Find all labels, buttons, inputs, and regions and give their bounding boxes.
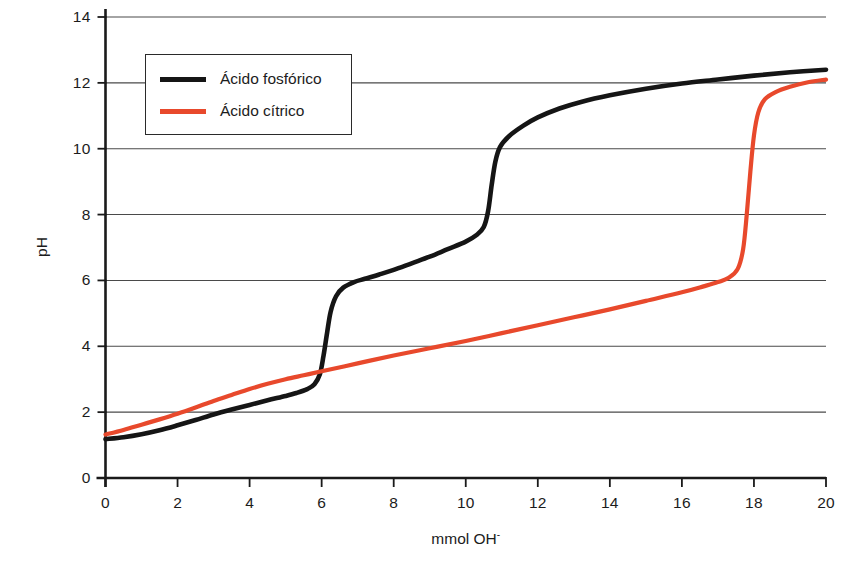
x-axis-title-superscript: -	[497, 529, 500, 540]
legend-swatch-phosphoric-icon	[160, 77, 206, 82]
x-tick-label-20: 20	[817, 494, 835, 512]
y-tick-label-2: 2	[82, 403, 91, 421]
legend-label-phosphoric: Ácido fosfórico	[220, 70, 322, 88]
chart-plot-svg	[0, 0, 856, 576]
y-tick-label-14: 14	[73, 8, 91, 26]
legend-swatch-citric-icon	[160, 109, 206, 114]
y-tick-label-10: 10	[73, 140, 91, 158]
legend-item-phosphoric: Ácido fosfórico	[160, 68, 322, 90]
x-tick-label-12: 12	[529, 494, 547, 512]
y-axis-title: pH	[33, 227, 51, 267]
x-tick-label-6: 6	[317, 494, 326, 512]
x-tick-label-10: 10	[457, 494, 475, 512]
legend-item-citric: Ácido cítrico	[160, 100, 304, 122]
y-tick-label-4: 4	[82, 337, 91, 355]
chart-container: 02468101214 02468101214161820 pH mmol OH…	[0, 0, 856, 576]
x-tick-label-16: 16	[673, 494, 691, 512]
y-tick-label-6: 6	[82, 271, 91, 289]
x-tick-label-4: 4	[245, 494, 254, 512]
x-axis-title-text: mmol OH	[431, 530, 496, 547]
y-tick-label-12: 12	[73, 74, 91, 92]
legend-label-citric: Ácido cítrico	[220, 102, 304, 120]
x-tick-label-18: 18	[745, 494, 763, 512]
y-tick-label-0: 0	[82, 469, 91, 487]
x-tick-label-2: 2	[173, 494, 182, 512]
x-tick-label-14: 14	[601, 494, 619, 512]
y-tick-label-8: 8	[82, 206, 91, 224]
x-tick-label-8: 8	[389, 494, 398, 512]
x-tick-label-0: 0	[101, 494, 110, 512]
chart-legend: Ácido fosfórico Ácido cítrico	[145, 54, 352, 135]
x-axis-title: mmol OH-	[376, 530, 556, 548]
